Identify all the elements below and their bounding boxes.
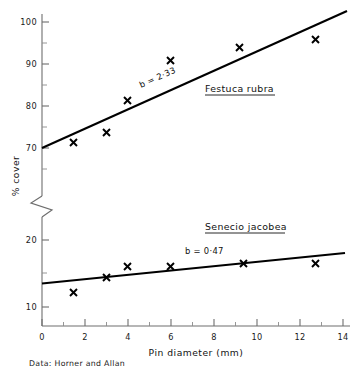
y-label-20: 20	[26, 235, 37, 245]
festuca-slope-annotation: b = 2·33	[138, 65, 177, 90]
y-ticks-lower	[42, 240, 49, 307]
data-point-marker	[167, 263, 174, 270]
x-label-2: 2	[82, 332, 88, 342]
x-label-12: 12	[294, 332, 305, 342]
y-label-10: 10	[26, 302, 37, 312]
data-point-marker	[124, 263, 131, 270]
data-point-marker	[236, 44, 243, 51]
y-label-80: 80	[26, 101, 37, 111]
x-axis-title: Pin diameter (mm)	[149, 347, 244, 358]
x-label-0: 0	[39, 332, 45, 342]
x-label-8: 8	[211, 332, 217, 342]
chart-figure: 100 90 80 70 20 10	[0, 0, 357, 384]
data-point-marker	[70, 289, 77, 296]
data-source-caption: Data: Horner and Allan	[29, 359, 125, 368]
x-label-4: 4	[125, 332, 131, 342]
y-tick-labels: 100 90 80 70 20 10	[20, 17, 37, 312]
axis-break-zigzag	[31, 196, 52, 217]
data-point-marker	[312, 260, 319, 267]
data-point-marker	[312, 36, 319, 43]
y-label-100: 100	[20, 17, 37, 27]
senecio-series-label: Senecio jacobea	[205, 221, 287, 232]
festuca-data-points	[70, 36, 319, 146]
senecio-slope-annotation: b = 0·47	[185, 246, 224, 256]
festuca-regression-line	[42, 11, 347, 148]
data-point-marker	[124, 97, 131, 104]
data-point-marker	[70, 139, 77, 146]
senecio-regression-line	[42, 253, 345, 284]
y-label-90: 90	[26, 59, 37, 69]
scatter-plot-svg: 100 90 80 70 20 10	[0, 0, 357, 384]
x-label-6: 6	[168, 332, 174, 342]
senecio-data-points	[70, 260, 319, 296]
x-tick-labels: 0 2 4 6 8 10 12 14	[39, 332, 348, 342]
x-label-10: 10	[251, 332, 262, 342]
y-axis-title: % cover	[10, 156, 21, 197]
x-label-14: 14	[337, 332, 348, 342]
data-point-marker	[103, 129, 110, 136]
y-label-70: 70	[26, 143, 37, 153]
data-point-marker	[167, 57, 174, 64]
x-ticks-minor	[64, 322, 322, 326]
festuca-series-label: Festuca rubra	[205, 83, 274, 94]
